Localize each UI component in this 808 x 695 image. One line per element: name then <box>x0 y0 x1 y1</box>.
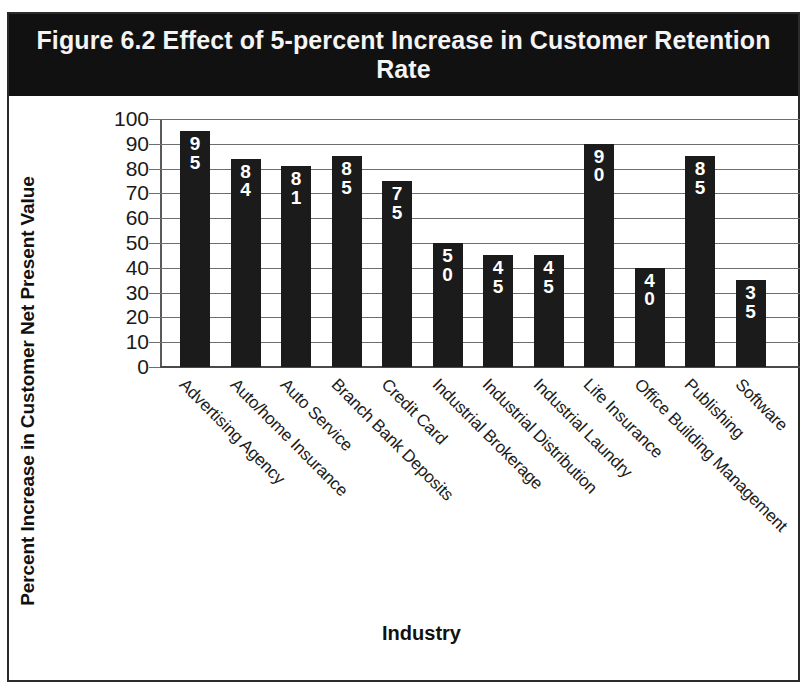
bar-value-digit: 5 <box>493 278 504 297</box>
y-axis-tick-label: 100 <box>89 108 149 129</box>
bar: 35 <box>736 280 766 367</box>
bar-value-digit: 5 <box>190 154 201 173</box>
y-axis-tick <box>149 293 160 294</box>
bar-value-digit: 1 <box>291 189 302 208</box>
bar-value-digit: 4 <box>240 181 251 200</box>
y-axis-tick <box>149 119 160 120</box>
bar: 85 <box>332 156 362 367</box>
figure-title-banner: Figure 6.2 Effect of 5-percent Increase … <box>9 14 798 96</box>
y-axis-tick-label: 40 <box>89 257 149 278</box>
bar: 81 <box>281 166 311 367</box>
bar-value-digit: 0 <box>644 290 655 309</box>
bar: 75 <box>382 181 412 367</box>
y-axis-title: Percent Increase in Customer Net Present… <box>11 102 45 680</box>
bar: 45 <box>534 255 564 367</box>
y-axis-tick-label: 30 <box>89 282 149 303</box>
bar: 84 <box>231 159 261 367</box>
y-axis-tick-label: 90 <box>89 133 149 154</box>
y-axis-tick <box>149 342 160 343</box>
bar-value-digit: 0 <box>594 166 605 185</box>
y-axis-tick-label: 0 <box>89 356 149 377</box>
y-axis-tick <box>149 193 160 194</box>
y-axis-tick <box>149 218 160 219</box>
bar-value-digit: 5 <box>442 247 453 266</box>
y-axis-tick <box>149 144 160 145</box>
y-axis-tick-label: 10 <box>89 331 149 352</box>
bar-value-digit: 5 <box>543 278 554 297</box>
bar-value-digit: 0 <box>442 266 453 285</box>
bar: 95 <box>180 131 210 367</box>
bar: 40 <box>635 268 665 367</box>
bar-value-digit: 7 <box>392 185 403 204</box>
y-axis-tick <box>149 367 160 368</box>
y-axis-tick <box>149 169 160 170</box>
gridline <box>160 144 800 145</box>
gridline <box>160 119 800 120</box>
bar: 90 <box>584 144 614 367</box>
bar-value-digit: 5 <box>695 179 706 198</box>
plot-area: 0102030405060708090100 95848185755045459… <box>160 119 800 367</box>
figure-title: Figure 6.2 Effect of 5-percent Increase … <box>9 26 798 85</box>
y-axis-tick-label: 70 <box>89 182 149 203</box>
bar: 45 <box>483 255 513 367</box>
y-axis-tick-label: 60 <box>89 207 149 228</box>
bar-value-digit: 5 <box>745 303 756 322</box>
y-axis-title-text: Percent Increase in Customer Net Present… <box>17 176 39 605</box>
bar-value-digit: 5 <box>341 179 352 198</box>
y-axis-tick-label: 80 <box>89 158 149 179</box>
bar: 85 <box>685 156 715 367</box>
y-axis-tick <box>149 317 160 318</box>
bar-value-digit: 8 <box>291 170 302 189</box>
x-axis-title: Industry <box>45 622 798 645</box>
y-axis-tick-label: 50 <box>89 232 149 253</box>
bar: 50 <box>433 243 463 367</box>
y-axis-tick <box>149 243 160 244</box>
y-axis-tick <box>149 268 160 269</box>
x-axis-tick-labels: Advertising AgencyAuto/home InsuranceAut… <box>160 367 800 607</box>
y-axis-tick-label: 20 <box>89 306 149 327</box>
figure-container: Figure 6.2 Effect of 5-percent Increase … <box>7 12 800 682</box>
bar-value-digit: 5 <box>392 204 403 223</box>
